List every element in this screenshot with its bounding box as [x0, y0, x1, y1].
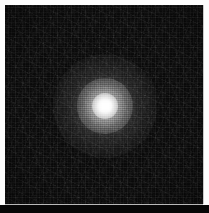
detector-noise-overlay — [5, 5, 203, 204]
image-viewport — [0, 0, 209, 213]
frame-right-edge — [203, 5, 204, 204]
below-frame-strip — [0, 205, 209, 213]
astronomical-image-frame — [5, 5, 203, 204]
